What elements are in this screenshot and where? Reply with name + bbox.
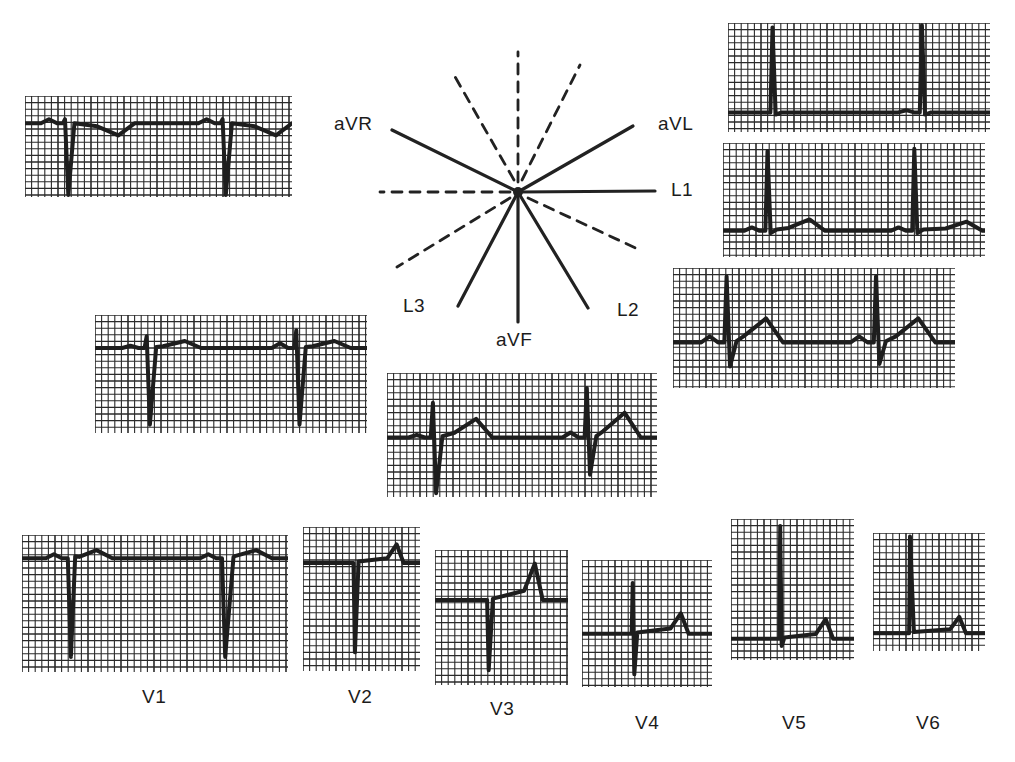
ecg-strip-l2: [673, 268, 955, 388]
ecg-trace-v5: [731, 526, 854, 646]
neg-avl-axis-line: [397, 198, 510, 267]
ecg-strip-v5: [731, 519, 854, 660]
ecg-trace-l2: [673, 276, 955, 366]
label-v5: V5: [782, 712, 806, 734]
ecg-strip-v6: [873, 533, 985, 651]
label-avf: aVF: [496, 329, 532, 351]
label-l3: L3: [403, 295, 425, 317]
ecg-strip-avf: [387, 373, 657, 497]
avr-axis-line: [392, 130, 518, 192]
label-v4: V4: [635, 712, 659, 734]
ecg-grid-avl: [728, 23, 990, 132]
ecg-strip-l1: [723, 143, 985, 257]
neg-avr-axis-line: [528, 198, 640, 250]
ecg-grid-avf: [387, 373, 657, 497]
label-v1: V1: [142, 686, 166, 708]
label-l1: L1: [671, 179, 693, 201]
label-l2: L2: [617, 299, 639, 321]
label-v6: V6: [916, 712, 940, 734]
ecg-grid-v5: [731, 519, 854, 660]
ecg-strip-v3: [435, 550, 568, 685]
ecg-grid-v1: [22, 535, 288, 672]
ecg-strip-avr: [25, 96, 292, 197]
ecg-grid-l2: [673, 268, 955, 388]
l3-axis-line: [458, 192, 518, 306]
ecg-strip-v1: [22, 535, 288, 672]
ecg-grid-v2: [303, 527, 420, 671]
ecg-strip-v4: [582, 560, 712, 687]
ecg-grid-avr: [25, 96, 292, 197]
ecg-strip-l3: [95, 315, 367, 433]
ecg-trace-avf: [387, 388, 657, 493]
l1-axis-line: [518, 191, 655, 192]
label-avr: aVR: [334, 113, 372, 135]
ecg-strip-v2: [303, 527, 420, 671]
ecg-grid-v3: [435, 550, 568, 685]
ecg-strip-avl: [728, 23, 990, 132]
label-avl: aVL: [658, 113, 693, 135]
ecg-grid-v4: [582, 560, 712, 687]
label-v3: V3: [490, 698, 514, 720]
hexaxial-lead-diagram: [320, 30, 720, 370]
ecg-grid-v6: [873, 533, 985, 651]
avl-axis-line: [518, 126, 633, 192]
label-v2: V2: [348, 686, 372, 708]
axis-origin: [513, 187, 523, 197]
ecg-grid-l3: [95, 315, 367, 433]
ecg-grid-l1: [723, 143, 985, 257]
